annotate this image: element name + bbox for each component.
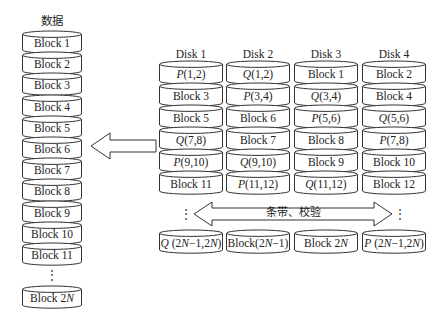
cylinder-label: Block 5	[22, 121, 82, 135]
cylinder-label: Q (2N−1,2N)	[159, 236, 223, 250]
cylinder-label: Block 10	[362, 155, 426, 169]
cylinder-label: Block 11	[159, 177, 223, 191]
cylinder-label: Block 7	[22, 163, 82, 177]
cylinder-label: Q(7,8)	[159, 133, 223, 147]
cylinder-label: Block 1	[294, 67, 358, 81]
disk-title-2: Disk 2	[226, 48, 290, 60]
disk2-row-6: P(11,12)	[226, 171, 290, 197]
cylinder-label: Block 12	[362, 177, 426, 191]
cylinder-label: Block 3	[22, 78, 82, 92]
cylinder-label: P(5,6)	[294, 111, 358, 125]
disk3-last-row: Block 2N	[294, 230, 358, 256]
cylinder-label: Block 3	[159, 89, 223, 103]
cylinder-label: P(7,8)	[362, 133, 426, 147]
cylinder-label: Block 6	[22, 142, 82, 156]
cylinder-label: Block 7	[226, 133, 290, 147]
cylinder-label: Block 4	[362, 89, 426, 103]
cylinder-label: P (2N−1,2N)	[362, 236, 426, 250]
cylinder-label: Block 8	[294, 133, 358, 147]
cylinder-label: Block 1	[22, 36, 82, 50]
disk1-ellipsis: ⋮	[176, 207, 196, 221]
cylinder-label: Block 2	[362, 67, 426, 81]
cylinder-label: Block 5	[159, 111, 223, 125]
cylinder-label: Q(5,6)	[362, 111, 426, 125]
cylinder-label: Q(3,4)	[294, 89, 358, 103]
cylinder-label: Block 6	[226, 111, 290, 125]
disk3-row-6: Q(11,12)	[294, 171, 358, 197]
disk1-row-6: Block 11	[159, 171, 223, 197]
disk4-ellipsis: ⋮	[390, 207, 410, 221]
cylinder-label: Block(2N−1)	[226, 236, 290, 250]
cylinder-label: Q(1,2)	[226, 67, 290, 81]
cylinder-label: Block 2	[22, 57, 82, 71]
disk-title-1: Disk 1	[159, 48, 223, 60]
cylinder-label: Block 9	[294, 155, 358, 169]
data-stack-ellipsis: ⋮	[42, 268, 62, 282]
data-block-11: Block 11	[22, 243, 82, 268]
cylinder-label: Q(11,12)	[294, 177, 358, 191]
stripe-label: 条带、校验	[240, 206, 346, 220]
cylinder-label: Q(9,10)	[226, 155, 290, 169]
cylinder-label: Block 4	[22, 100, 82, 114]
disk4-last-row: P (2N−1,2N)	[362, 230, 426, 256]
cylinder-label: P(9,10)	[159, 155, 223, 169]
cylinder-label: Block 10	[22, 227, 82, 241]
data-stack-title: 数据	[22, 12, 82, 28]
cylinder-label: P(1,2)	[159, 67, 223, 81]
left-arrow-icon	[88, 130, 160, 162]
disk1-last-row: Q (2N−1,2N)	[159, 230, 223, 256]
disk-title-4: Disk 4	[362, 48, 426, 60]
disk4-row-6: Block 12	[362, 171, 426, 197]
cylinder-label: Block 9	[22, 206, 82, 220]
cylinder-label: Block 2N	[294, 236, 358, 250]
cylinder-label: Block 2N	[22, 291, 82, 305]
disk-title-3: Disk 3	[294, 48, 358, 60]
cylinder-label: Block 11	[22, 248, 82, 262]
data-block-2n: Block 2N	[22, 286, 82, 311]
cylinder-label: P(3,4)	[226, 89, 290, 103]
cylinder-label: P(11,12)	[226, 177, 290, 191]
cylinder-label: Block 8	[22, 184, 82, 198]
disk2-last-row: Block(2N−1)	[226, 230, 290, 256]
